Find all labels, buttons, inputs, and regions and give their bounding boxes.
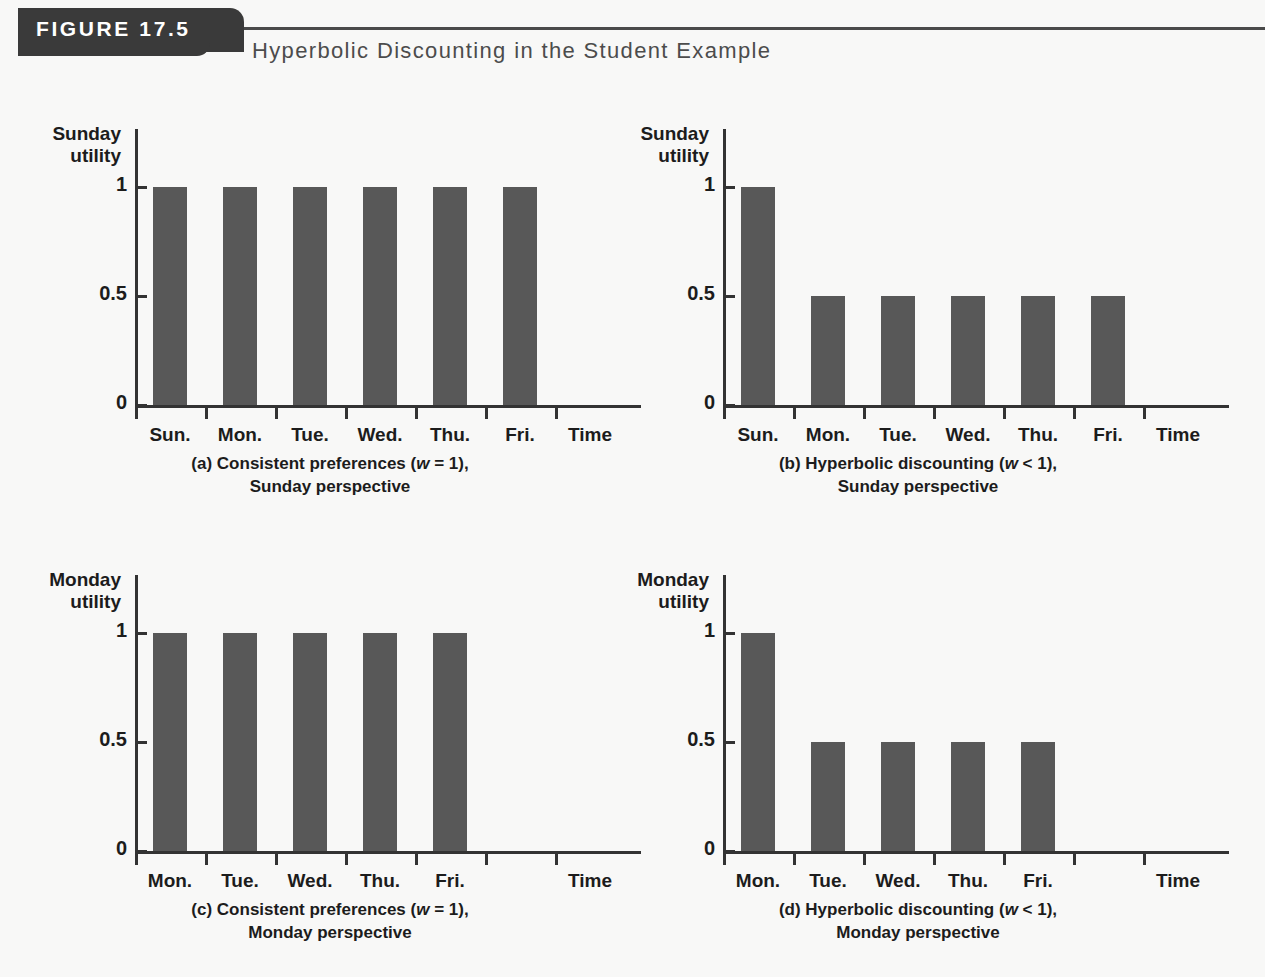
y-axis-label-line2: utility — [70, 145, 121, 166]
figure-page: FIGURE 17.5 Hyperbolic Discounting in th… — [0, 0, 1265, 977]
x-axis-line — [723, 851, 1229, 854]
y-tick-label: 0.5 — [39, 282, 127, 305]
bar — [951, 742, 985, 851]
x-tick-label: Fri. — [400, 870, 500, 892]
y-tick-label: 1 — [627, 173, 715, 196]
panel-caption-b: (b) Hyperbolic discounting (w < 1),Sunda… — [603, 453, 1233, 499]
x-tick-mark — [135, 408, 138, 419]
panel-caption-d: (d) Hyperbolic discounting (w < 1),Monda… — [603, 899, 1233, 945]
panel-caption-line1: (c) Consistent preferences (w = 1), — [191, 900, 468, 919]
bar — [153, 187, 187, 405]
y-axis-label-line1: Sunday — [52, 123, 121, 144]
panel-caption-a: (a) Consistent preferences (w = 1),Sunda… — [15, 453, 645, 499]
panel-caption-line2: Monday perspective — [248, 923, 411, 942]
y-axis-label: Sundayutility — [513, 123, 709, 168]
panel-caption-line1: (a) Consistent preferences (w = 1), — [191, 454, 468, 473]
panel-caption-c: (c) Consistent preferences (w = 1),Monda… — [15, 899, 645, 945]
x-tick-mark — [723, 854, 726, 865]
x-tick-mark — [275, 854, 278, 865]
y-tick-mark — [726, 186, 735, 189]
panel-caption-line2: Sunday perspective — [838, 477, 999, 496]
bar — [811, 296, 845, 405]
bar — [881, 296, 915, 405]
bar — [741, 633, 775, 851]
bar — [433, 633, 467, 851]
x-tick-mark — [275, 408, 278, 419]
x-tick-mark — [485, 854, 488, 865]
x-tick-mark — [1143, 408, 1146, 419]
bar — [881, 742, 915, 851]
y-tick-mark — [726, 295, 735, 298]
x-tick-mark — [555, 408, 558, 419]
y-axis-line — [135, 575, 138, 851]
x-tick-mark — [1003, 408, 1006, 419]
bar — [153, 633, 187, 851]
y-axis-line — [723, 575, 726, 851]
bar — [503, 187, 537, 405]
y-tick-mark — [138, 850, 147, 853]
x-tick-mark — [555, 854, 558, 865]
panel-caption-line1: (b) Hyperbolic discounting (w < 1), — [779, 454, 1057, 473]
bar — [433, 187, 467, 405]
x-tick-mark — [863, 408, 866, 419]
y-tick-label: 1 — [39, 173, 127, 196]
y-tick-mark — [726, 404, 735, 407]
x-tick-mark — [415, 408, 418, 419]
x-axis-line — [135, 405, 641, 408]
bar — [363, 187, 397, 405]
x-tick-mark — [793, 408, 796, 419]
x-axis-time-label: Time — [1128, 870, 1228, 892]
x-tick-mark — [345, 854, 348, 865]
x-tick-mark — [205, 854, 208, 865]
x-tick-mark — [135, 854, 138, 865]
bar — [1091, 296, 1125, 405]
y-tick-label: 0.5 — [627, 728, 715, 751]
x-axis-time-label: Time — [1128, 424, 1228, 446]
y-axis-label-line2: utility — [70, 591, 121, 612]
bar — [293, 633, 327, 851]
x-tick-mark — [345, 408, 348, 419]
bar — [223, 633, 257, 851]
x-tick-mark — [933, 854, 936, 865]
y-axis-line — [723, 129, 726, 405]
x-tick-mark — [933, 408, 936, 419]
x-axis-line — [723, 405, 1229, 408]
bar — [1021, 296, 1055, 405]
bar — [223, 187, 257, 405]
y-axis-label-line1: Monday — [49, 569, 121, 590]
bar — [293, 187, 327, 405]
x-tick-mark — [485, 408, 488, 419]
x-axis-time-label: Time — [540, 870, 640, 892]
y-axis-label-line1: Sunday — [640, 123, 709, 144]
bar — [741, 187, 775, 405]
panel-caption-line1: (d) Hyperbolic discounting (w < 1), — [779, 900, 1057, 919]
y-axis-label: Mondayutility — [0, 569, 121, 614]
y-tick-label: 0 — [39, 837, 127, 860]
y-tick-label: 1 — [627, 619, 715, 642]
header-rule — [243, 27, 1265, 30]
y-tick-mark — [138, 741, 147, 744]
y-tick-label: 1 — [39, 619, 127, 642]
y-tick-label: 0.5 — [627, 282, 715, 305]
y-axis-line — [135, 129, 138, 405]
y-tick-label: 0 — [627, 391, 715, 414]
x-tick-label: Fri. — [988, 870, 1088, 892]
y-tick-mark — [138, 632, 147, 635]
x-tick-mark — [723, 408, 726, 419]
x-axis-time-label: Time — [540, 424, 640, 446]
y-axis-label: Sundayutility — [0, 123, 121, 168]
x-tick-mark — [793, 854, 796, 865]
bar — [811, 742, 845, 851]
y-axis-label-line2: utility — [658, 591, 709, 612]
x-tick-mark — [1003, 854, 1006, 865]
y-axis-label-line1: Monday — [637, 569, 709, 590]
y-tick-label: 0 — [627, 837, 715, 860]
figure-number-label: FIGURE 17.5 — [36, 17, 191, 41]
y-tick-mark — [726, 850, 735, 853]
y-axis-label: Mondayutility — [513, 569, 709, 614]
figure-title: Hyperbolic Discounting in the Student Ex… — [252, 38, 771, 64]
y-axis-label-line2: utility — [658, 145, 709, 166]
y-tick-label: 0 — [39, 391, 127, 414]
bar — [1021, 742, 1055, 851]
x-tick-mark — [863, 854, 866, 865]
